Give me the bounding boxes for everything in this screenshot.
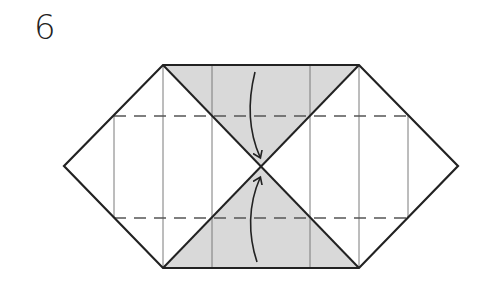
origami-diagram xyxy=(0,0,477,289)
